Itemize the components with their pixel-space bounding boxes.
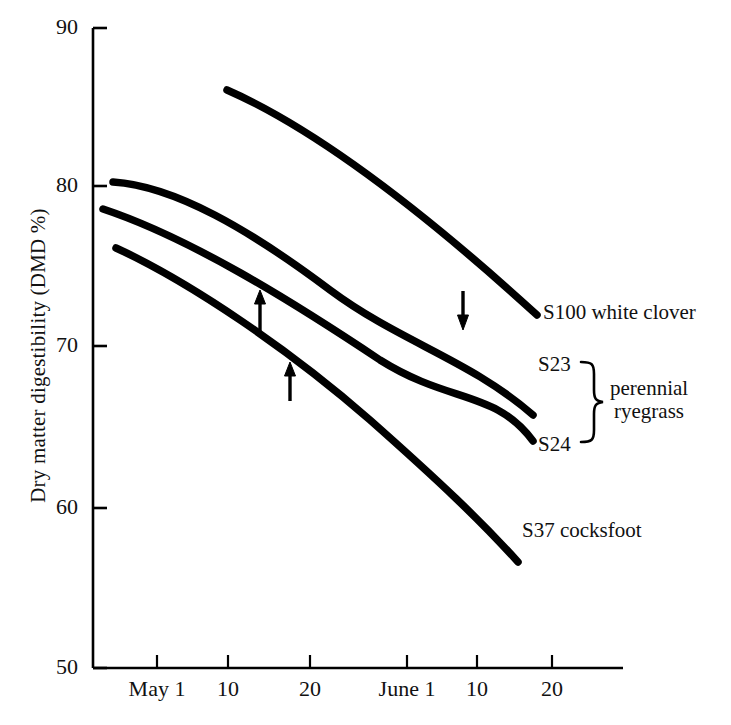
- y-tick-label-80: 80: [28, 172, 78, 198]
- chart-figure: Dry matter digestibility (DMD %) 90 80 7…: [0, 0, 731, 725]
- series-line-s37-cocksfoot: [116, 248, 518, 562]
- series-label-s23: S23: [538, 352, 571, 377]
- arrow-up-icon-1: [255, 290, 266, 331]
- group-label-perennial-ryegrass: perennial ryegrass: [610, 377, 688, 422]
- x-tick-label-june-20: 20: [522, 676, 582, 702]
- series-label-s37-cocksfoot: S37 cocksfoot: [522, 518, 642, 543]
- series-label-s24: S24: [538, 432, 571, 457]
- x-tick-label-june-10: 10: [447, 676, 507, 702]
- series-line-s100-white-clover: [227, 90, 537, 315]
- group-label-line2: ryegrass: [610, 400, 688, 423]
- x-tick-label-may-1: May 1: [107, 676, 207, 702]
- y-axis-ticks: [93, 28, 107, 668]
- arrow-up-icon-2: [285, 362, 296, 401]
- data-series-lines: [103, 90, 537, 562]
- y-tick-label-70: 70: [28, 332, 78, 358]
- x-tick-label-may-20: 20: [280, 676, 340, 702]
- x-axis-ticks: [157, 655, 552, 668]
- plot-area: [0, 0, 731, 725]
- x-tick-label-june-1: June 1: [352, 676, 462, 702]
- x-tick-label-may-10: 10: [198, 676, 258, 702]
- series-label-s100-white-clover: S100 white clover: [543, 300, 696, 325]
- y-tick-label-50: 50: [28, 654, 78, 680]
- y-tick-label-90: 90: [28, 14, 78, 40]
- series-line-s24: [103, 209, 533, 441]
- group-brace: [581, 362, 603, 442]
- arrow-down-icon-1: [458, 291, 469, 330]
- y-tick-label-60: 60: [28, 494, 78, 520]
- group-label-line1: perennial: [610, 377, 688, 400]
